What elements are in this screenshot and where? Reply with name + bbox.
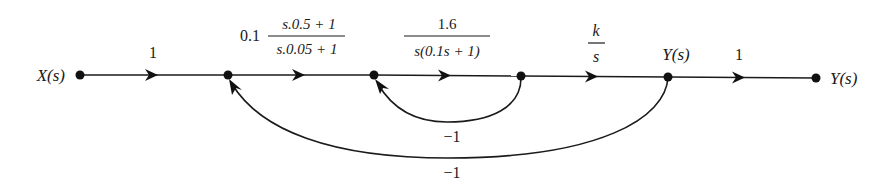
node-label-n5: Y(s) [662, 45, 690, 64]
signal-flow-graph: X(s) Y(s) Y(s) 1 0.1 s.0.5 + 1 s.0.05 + … [0, 0, 892, 182]
node-n3[interactable] [370, 71, 379, 80]
feedback-edge-n5-n2 [232, 77, 668, 158]
gain-denominator-n2-n3: s.0.05 + 1 [277, 41, 338, 57]
arrow-feedback-n4-n3 [375, 79, 389, 94]
gain-denominator-n3-n4: s(0.1s + 1) [414, 43, 480, 60]
feedback-edge-n4-n3 [378, 76, 521, 122]
gain-numerator-n4-n5: k [592, 22, 600, 39]
node-n5[interactable] [664, 73, 673, 82]
node-n2[interactable] [224, 71, 233, 80]
gain-numerator-n3-n4: 1.6 [438, 16, 457, 32]
node-label-n1: X(s) [36, 66, 66, 85]
gain-numerator-n2-n3: s.0.5 + 1 [282, 16, 335, 32]
gain-label-feedback-n4-n3: −1 [443, 128, 460, 145]
node-n4[interactable] [517, 72, 526, 81]
arrow-feedback-n5-n2 [229, 79, 242, 95]
gain-label-n1-n2: 1 [149, 44, 157, 61]
node-n1[interactable] [76, 71, 85, 80]
gain-label-feedback-n5-n2: −1 [443, 164, 460, 181]
gain-denominator-n4-n5: s [593, 48, 599, 65]
gain-prefix-n2-n3: 0.1 [240, 27, 260, 44]
node-n6[interactable] [812, 74, 821, 83]
gain-label-n5-n6: 1 [735, 46, 743, 63]
node-label-n6: Y(s) [830, 69, 858, 88]
